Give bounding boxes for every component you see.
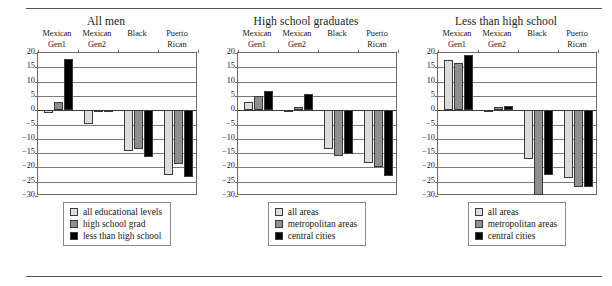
category-label-line2: Black <box>315 28 359 39</box>
y-axis-tick-label: −15 <box>422 148 435 156</box>
legend-item: metropolitan areas <box>275 218 358 230</box>
category-label: MexicanGen1 <box>235 28 279 50</box>
bar <box>374 110 383 167</box>
category-label-line1: Puerto <box>355 28 399 39</box>
panel-title: All men <box>87 15 125 27</box>
y-axis-tick-label: 5 <box>431 91 435 99</box>
category-label-line1: Puerto <box>155 28 199 39</box>
legend-item: central cities <box>475 230 558 242</box>
bar <box>304 94 313 110</box>
y-axis-tick-label: −20 <box>422 162 435 170</box>
category-label-line2: Rican <box>555 39 599 50</box>
legend-label: central cities <box>288 230 336 242</box>
plot-area: 20151050−5−10−15−20−25−30 <box>415 52 597 195</box>
bar <box>384 110 393 176</box>
bar <box>54 102 63 111</box>
category-label-line2: Black <box>115 28 159 39</box>
category-label-line1: Puerto <box>555 28 599 39</box>
y-axis-tick-label: −5 <box>426 120 435 128</box>
category-label-line1: Mexican <box>235 28 279 39</box>
category-label-line2: Black <box>515 28 559 39</box>
bar <box>584 110 593 187</box>
y-axis-tick-label: −30 <box>422 191 435 199</box>
bar <box>174 110 183 164</box>
y-axis-tick-label: 0 <box>231 105 235 113</box>
bars-layer <box>238 53 396 194</box>
y-axis-tick <box>435 196 438 197</box>
y-axis-tick-label: −25 <box>222 177 235 185</box>
y-axis-tick-label: 20 <box>427 48 435 56</box>
chart-panels-container: All menMexicanGen1MexicanGen2BlackPuerto… <box>0 12 612 270</box>
bar <box>364 110 373 163</box>
bars-layer <box>38 53 196 194</box>
legend-label: metropolitan areas <box>288 218 358 230</box>
bar <box>534 110 543 194</box>
legend-label: all educational levels <box>83 206 162 218</box>
category-label: MexicanGen2 <box>75 28 119 50</box>
y-axis-tick-label: −10 <box>422 134 435 142</box>
bar <box>544 110 553 174</box>
category-label-line1: Mexican <box>435 28 479 39</box>
legend: all educational levelshigh school gradle… <box>63 202 171 246</box>
y-axis-tick-label: −25 <box>422 177 435 185</box>
legend-item: central cities <box>275 230 358 242</box>
category-label: Black <box>315 28 359 39</box>
chart-panel-3: Less than high schoolMexicanGen1MexicanG… <box>406 12 606 270</box>
bar <box>244 102 253 110</box>
category-label-line2: Gen1 <box>435 39 479 50</box>
y-axis-tick-label: −5 <box>26 120 35 128</box>
axes-frame <box>37 52 197 195</box>
category-label: MexicanGen1 <box>435 28 479 50</box>
y-axis-tick <box>235 196 238 197</box>
legend-item: high school grad <box>70 218 162 230</box>
category-label: Black <box>515 28 559 39</box>
legend-swatch-icon <box>475 208 483 216</box>
category-label: PuertoRican <box>555 28 599 50</box>
legend-label: central cities <box>488 230 536 242</box>
bar <box>444 60 453 110</box>
y-axis-tick-label: −30 <box>222 191 235 199</box>
legend-swatch-icon <box>70 220 78 228</box>
legend-item: all areas <box>275 206 358 218</box>
y-axis-tick-label: 0 <box>431 105 435 113</box>
y-axis-tick-label: 20 <box>27 48 35 56</box>
bar <box>64 59 73 110</box>
bar <box>134 110 143 149</box>
bar <box>164 110 173 174</box>
zero-line <box>38 110 196 111</box>
y-axis-labels: 20151050−5−10−15−20−25−30 <box>215 52 237 195</box>
category-labels-row: MexicanGen1MexicanGen2BlackPuertoRican <box>437 28 597 52</box>
category-label-line1: Mexican <box>475 28 519 39</box>
category-label-line2: Gen2 <box>75 39 119 50</box>
legend-item: all areas <box>475 206 558 218</box>
category-label: MexicanGen2 <box>275 28 319 50</box>
legend-label: all areas <box>288 206 319 218</box>
category-label: PuertoRican <box>355 28 399 50</box>
x-axis-tick <box>398 50 399 53</box>
y-axis-tick-label: 5 <box>31 91 35 99</box>
category-label-line2: Gen1 <box>235 39 279 50</box>
plot-area: 20151050−5−10−15−20−25−30 <box>15 52 197 195</box>
panel-title: High school graduates <box>254 15 359 27</box>
category-label-line1: Mexican <box>275 28 319 39</box>
legend-label: less than high school <box>83 230 161 242</box>
legend-item: all educational levels <box>70 206 162 218</box>
bar <box>464 55 473 110</box>
category-label-line1: Mexican <box>75 28 119 39</box>
legend-swatch-icon <box>475 232 483 240</box>
bar <box>524 110 533 159</box>
chart-panel-2: High school graduatesMexicanGen1MexicanG… <box>206 12 406 270</box>
category-label-line2: Gen1 <box>35 39 79 50</box>
y-axis-tick-label: −20 <box>22 162 35 170</box>
y-axis-tick-label: −5 <box>226 120 235 128</box>
bar <box>564 110 573 178</box>
bar <box>124 110 133 151</box>
bar <box>334 110 343 156</box>
legend: all areasmetropolitan areascentral citie… <box>468 202 567 246</box>
category-label-line2: Rican <box>155 39 199 50</box>
category-label: PuertoRican <box>155 28 199 50</box>
legend-swatch-icon <box>275 220 283 228</box>
legend-item: less than high school <box>70 230 162 242</box>
y-axis-tick-label: 10 <box>27 77 35 85</box>
y-axis-tick-label: −15 <box>222 148 235 156</box>
